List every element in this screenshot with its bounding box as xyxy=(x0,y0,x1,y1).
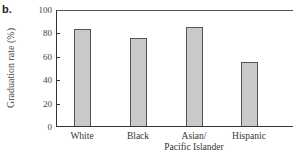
bar xyxy=(241,62,258,126)
y-tick-label: 40 xyxy=(43,75,52,85)
x-tick-label: Hispanic xyxy=(232,131,266,142)
y-tick-label: 60 xyxy=(43,52,52,62)
y-tick-label: 80 xyxy=(43,28,52,38)
y-tick-label: 0 xyxy=(48,122,53,132)
x-tick-label: Asian/Pacific Islander xyxy=(164,131,223,153)
bar xyxy=(186,27,203,126)
plot-area xyxy=(56,10,293,127)
y-axis-label: Graduation rate (%) xyxy=(5,28,16,108)
y-tick-label: 100 xyxy=(39,5,53,15)
x-tick-label: Black xyxy=(127,131,149,142)
bar xyxy=(130,38,147,126)
x-tick-label: White xyxy=(70,131,93,142)
panel-label: b. xyxy=(2,3,12,15)
bar xyxy=(74,29,91,126)
y-tick-label: 20 xyxy=(43,99,52,109)
